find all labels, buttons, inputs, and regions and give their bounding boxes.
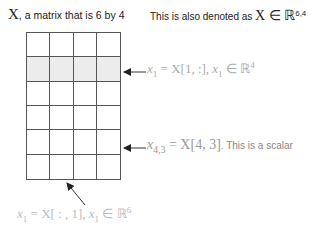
scalar-label: x4,3 = X[4, 3]. This is a scalar — [147, 137, 293, 155]
column-vector-label: x1 = X[ : , 1], x1 ∈ ℝ6 — [17, 205, 131, 224]
row-vector-label: x1 = X[1, :], x1 ∈ ℝ4 — [147, 60, 255, 79]
column-arrow — [67, 183, 85, 205]
arrows — [0, 0, 317, 237]
scalar-note: . This is a scalar — [221, 140, 293, 151]
